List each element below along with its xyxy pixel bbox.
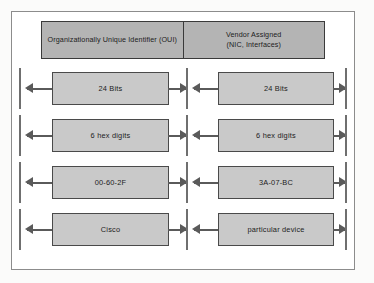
row-bits-right-half: 24 Bits — [188, 72, 347, 105]
extent-tick-icon — [345, 162, 347, 203]
arrow-shaft — [27, 88, 54, 90]
row-meaning-left-half: Cisco — [19, 213, 188, 246]
arrow-shaft — [194, 88, 220, 90]
row-values-right-half: 3A-07-BC — [188, 166, 347, 199]
extent-tick-icon — [19, 162, 21, 203]
value-box: particular device — [218, 213, 334, 246]
arrow-shaft — [194, 135, 220, 137]
row-meaning-right-half: particular device — [188, 213, 347, 246]
measure-row-bits: 24 Bits 24 Bits — [19, 72, 347, 105]
value-box: 24 Bits — [52, 72, 169, 105]
extent-tick-icon — [19, 68, 21, 109]
value-box: 3A-07-BC — [218, 166, 334, 199]
extent-tick-icon — [345, 209, 347, 250]
extent-tick-icon — [19, 115, 21, 156]
arrow-shaft — [194, 229, 220, 231]
measure-row-meaning: Cisco particular device — [19, 213, 347, 246]
arrow-shaft — [27, 182, 54, 184]
extent-tick-icon — [345, 68, 347, 109]
header-vendor-line2: (NIC, Interfaces) — [226, 40, 281, 50]
header-cell-vendor-assigned: Vendor Assigned (NIC, Interfaces) — [184, 21, 326, 59]
value-box: 24 Bits — [218, 72, 334, 105]
arrow-shaft — [27, 229, 54, 231]
arrow-shaft — [27, 135, 54, 137]
extent-tick-icon — [19, 209, 21, 250]
value-box: Cisco — [52, 213, 169, 246]
header-oui-line1: Organizationally Unique Identifier (OUI) — [48, 35, 177, 45]
header-vendor-line1: Vendor Assigned — [226, 30, 281, 40]
row-bits-left-half: 24 Bits — [19, 72, 188, 105]
diagram-canvas: Organizationally Unique Identifier (OUI)… — [0, 0, 374, 283]
row-values-left-half: 00-60-2F — [19, 166, 188, 199]
header-row: Organizationally Unique Identifier (OUI)… — [41, 21, 325, 59]
value-box: 00-60-2F — [52, 166, 169, 199]
arrow-shaft — [194, 182, 220, 184]
row-hex-left-half: 6 hex digits — [19, 119, 188, 152]
header-cell-oui: Organizationally Unique Identifier (OUI) — [41, 21, 184, 59]
value-box: 6 hex digits — [218, 119, 334, 152]
measure-row-hex-digits: 6 hex digits 6 hex digits — [19, 119, 347, 152]
value-box: 6 hex digits — [52, 119, 169, 152]
measure-row-hex-values: 00-60-2F 3A-07-BC — [19, 166, 347, 199]
row-hex-right-half: 6 hex digits — [188, 119, 347, 152]
extent-tick-icon — [345, 115, 347, 156]
